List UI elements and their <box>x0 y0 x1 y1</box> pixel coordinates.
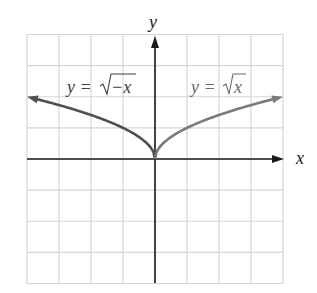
svg-text:x: x <box>233 77 242 97</box>
svg-text:y =: y = <box>189 77 216 97</box>
curve-right-arrow-icon <box>271 96 283 104</box>
curve-left-arrow-icon <box>27 96 39 104</box>
label-sqrt-neg-x: y = −x <box>65 74 136 97</box>
graph: x y y = −x y = x <box>0 0 317 293</box>
label-sqrt-x: y = x <box>189 74 246 97</box>
svg-text:−x: −x <box>111 77 131 97</box>
x-axis-arrow-icon <box>272 155 284 163</box>
x-axis-label: x <box>295 148 304 168</box>
y-axis-label: y <box>147 12 157 32</box>
y-axis-arrow-icon <box>151 36 159 48</box>
svg-text:y =: y = <box>65 77 92 97</box>
